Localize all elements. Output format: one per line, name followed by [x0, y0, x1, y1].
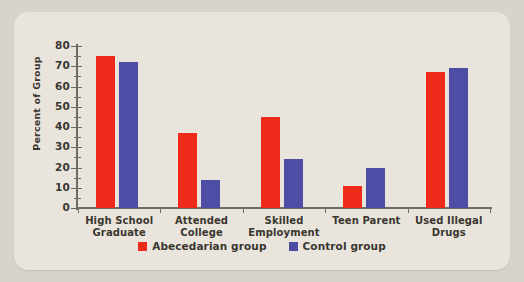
y-tick-label: 70	[24, 59, 70, 71]
legend-swatch-icon	[289, 242, 298, 251]
y-tick-label: 80	[24, 39, 70, 51]
y-axis-tick-labels: 01020304050607080	[14, 12, 70, 270]
x-category-label: Used IllegalDrugs	[401, 215, 497, 238]
bar-group	[78, 46, 160, 208]
bar-control	[284, 159, 303, 208]
bar-chart-card: Percent of Group 01020304050607080 High …	[14, 12, 510, 270]
y-tick-label: 10	[24, 181, 70, 193]
y-tick-label: 20	[24, 161, 70, 173]
legend-label: Control group	[303, 240, 386, 252]
legend-swatch-icon	[138, 242, 147, 251]
bar-control	[449, 68, 468, 208]
x-category-label-line: Employment	[236, 227, 332, 239]
chart-legend: Abecedarian groupControl group	[14, 240, 510, 252]
bar-control	[119, 62, 138, 208]
bar-abecedarian	[178, 133, 197, 208]
y-tick-label: 0	[24, 201, 70, 213]
bar-abecedarian	[343, 186, 362, 208]
y-tick-label: 60	[24, 80, 70, 92]
bar-group	[325, 46, 407, 208]
y-tick-label: 40	[24, 120, 70, 132]
bar-group	[160, 46, 242, 208]
bar-abecedarian	[261, 117, 280, 208]
y-tick-label: 50	[24, 100, 70, 112]
x-category-label-line: Used Illegal	[401, 215, 497, 227]
bar-group	[243, 46, 325, 208]
bar-group	[408, 46, 490, 208]
bar-control	[201, 180, 220, 208]
plot-area	[78, 46, 490, 208]
y-tick-label: 30	[24, 140, 70, 152]
bar-abecedarian	[96, 56, 115, 208]
legend-label: Abecedarian group	[152, 240, 266, 252]
legend-item: Abecedarian group	[138, 240, 266, 252]
x-category-label-line: Drugs	[401, 227, 497, 239]
legend-item: Control group	[289, 240, 386, 252]
bar-control	[366, 168, 385, 209]
bar-abecedarian	[426, 72, 445, 208]
x-tick	[490, 207, 491, 213]
